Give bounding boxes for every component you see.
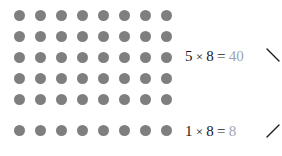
array-dot (77, 10, 88, 21)
array-dot (98, 31, 109, 42)
array-dot (56, 31, 67, 42)
array-dot (77, 94, 88, 105)
equals-operator: = (214, 123, 229, 139)
array-dot (119, 94, 130, 105)
array-dot (119, 31, 130, 42)
array-row (14, 89, 172, 110)
array-dot (161, 52, 172, 63)
array-dot (140, 52, 151, 63)
brace-tip-up-right-icon (266, 124, 282, 140)
array-dot (35, 73, 46, 84)
five-by-eight-array (14, 5, 172, 110)
array-dot (14, 31, 25, 42)
array-row (14, 26, 172, 47)
array-dot (161, 10, 172, 21)
array-dot (119, 125, 130, 136)
array-dot (56, 10, 67, 21)
equation-left-factor: 1 (185, 123, 193, 139)
array-row (14, 47, 172, 68)
brace-tip-down-right-icon (266, 48, 282, 64)
array-dot (98, 52, 109, 63)
one-by-eight-array (14, 120, 172, 141)
equation-right-factor: 8 (206, 123, 214, 139)
array-dot (35, 125, 46, 136)
array-dot (119, 10, 130, 21)
array-dot (35, 94, 46, 105)
equation-left-factor: 5 (185, 48, 193, 64)
array-dot (140, 125, 151, 136)
figure-canvas: 5×8=40 1×8=8 (0, 0, 282, 156)
array-dot (14, 73, 25, 84)
array-dot (140, 31, 151, 42)
equation-result: 8 (229, 123, 237, 139)
array-dot (98, 125, 109, 136)
equation-one-times-eight: 1×8=8 (185, 122, 236, 141)
multiply-operator: × (193, 124, 207, 139)
array-dot (14, 125, 25, 136)
array-dot (77, 52, 88, 63)
equation-five-times-eight: 5×8=40 (185, 47, 244, 66)
array-row (14, 5, 172, 26)
array-dot (161, 94, 172, 105)
array-row (14, 68, 172, 89)
array-dot (14, 52, 25, 63)
array-dot (98, 94, 109, 105)
array-dot (140, 73, 151, 84)
array-dot (161, 73, 172, 84)
array-dot (140, 94, 151, 105)
array-dot (77, 31, 88, 42)
array-dot (56, 125, 67, 136)
array-dot (35, 52, 46, 63)
multiply-operator: × (193, 49, 207, 64)
array-dot (77, 125, 88, 136)
array-dot (56, 52, 67, 63)
array-dot (98, 73, 109, 84)
array-dot (56, 94, 67, 105)
array-dot (35, 10, 46, 21)
equation-result: 40 (229, 48, 244, 64)
equals-operator: = (214, 48, 229, 64)
array-dot (35, 31, 46, 42)
equation-right-factor: 8 (206, 48, 214, 64)
array-dot (119, 52, 130, 63)
array-dot (56, 73, 67, 84)
array-dot (14, 94, 25, 105)
array-dot (140, 10, 151, 21)
array-dot (161, 31, 172, 42)
array-dot (161, 125, 172, 136)
array-dot (98, 10, 109, 21)
array-dot (119, 73, 130, 84)
array-dot (14, 10, 25, 21)
array-dot (77, 73, 88, 84)
array-row (14, 120, 172, 141)
